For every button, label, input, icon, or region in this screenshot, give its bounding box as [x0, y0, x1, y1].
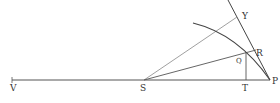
diagram-canvas: V S T P Q R Y — [0, 0, 280, 103]
line-SY — [144, 17, 237, 80]
line-SR — [144, 50, 256, 80]
label-R: R — [256, 48, 263, 58]
label-V: V — [9, 83, 17, 93]
label-P: P — [272, 76, 278, 86]
label-Q: Q — [236, 57, 242, 65]
label-T: T — [242, 83, 248, 93]
tangent-line-PY — [228, 0, 270, 80]
label-S: S — [140, 83, 146, 93]
label-Y: Y — [241, 11, 249, 21]
